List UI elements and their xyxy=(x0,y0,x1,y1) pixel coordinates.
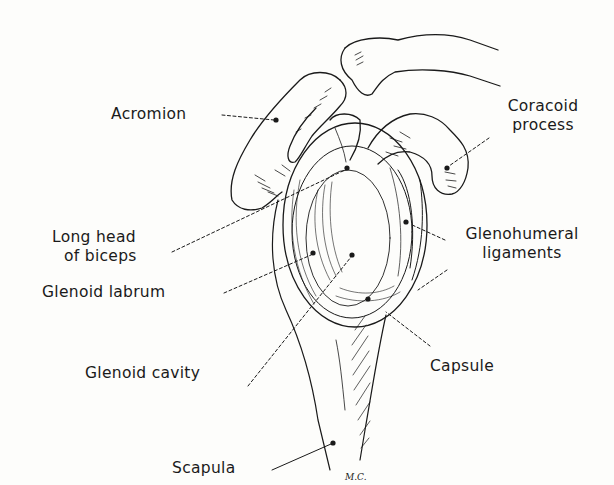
label-glenoid-cavity: Glenoid cavity xyxy=(85,364,200,383)
label-coracoid-line1: Coracoid xyxy=(493,97,593,116)
label-capsule: Capsule xyxy=(430,357,494,376)
label-glenoid-labrum: Glenoid labrum xyxy=(42,283,165,302)
label-long-head-line1: Long head xyxy=(52,228,137,247)
scapula-leader-line xyxy=(272,444,331,470)
scapula-body-drawing xyxy=(272,200,386,470)
artist-signature: M.C. xyxy=(344,472,367,482)
label-glenohumeral-ligaments: Glenohumeral ligaments xyxy=(452,225,592,263)
label-glenohumeral-line2: ligaments xyxy=(452,244,592,263)
label-acromion: Acromion xyxy=(111,105,186,124)
coracoid-drawing xyxy=(368,114,468,195)
label-coracoid-process: Coracoid process xyxy=(493,97,593,135)
label-coracoid-line2: process xyxy=(493,116,593,135)
acromion-drawing xyxy=(231,73,346,210)
label-long-head-line2: of biceps xyxy=(52,247,137,266)
clavicle-drawing xyxy=(341,35,500,96)
label-long-head-of-biceps: Long head of biceps xyxy=(52,228,137,266)
label-scapula: Scapula xyxy=(172,459,235,478)
shoulder-anatomy-figure: M.C. Acromion Coracoid process Long head… xyxy=(0,0,614,485)
leader-lines xyxy=(172,115,489,386)
label-glenohumeral-line1: Glenohumeral xyxy=(452,225,592,244)
